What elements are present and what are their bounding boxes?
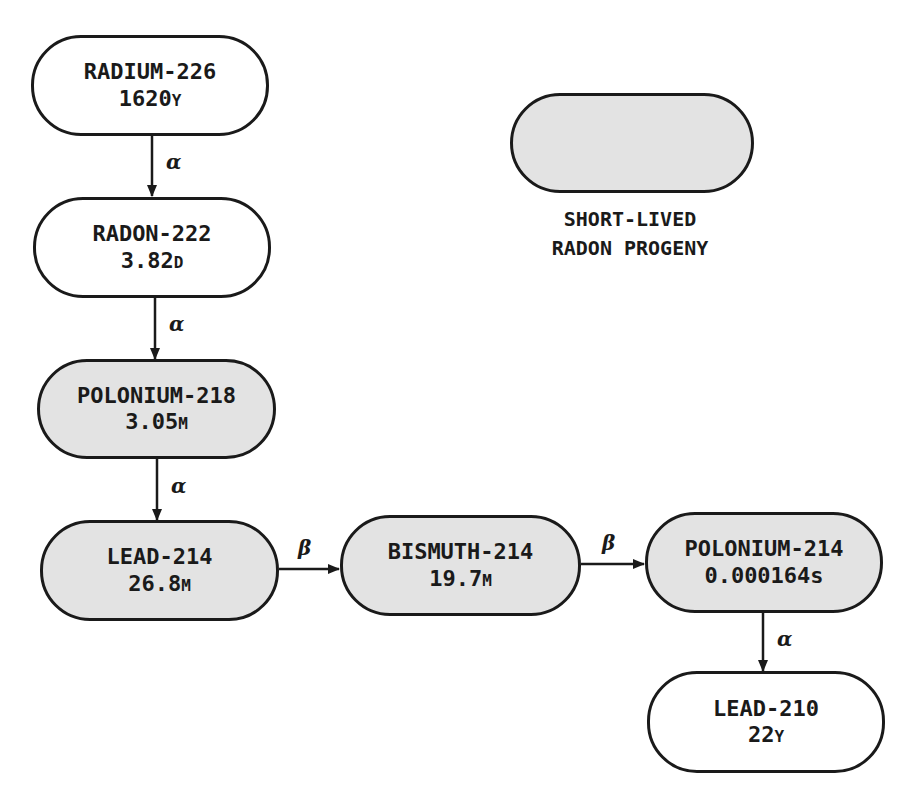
node-lead-210: LEAD-210 22Y — [647, 671, 885, 773]
node-polonium-218: POLONIUM-218 3.05M — [37, 359, 276, 459]
node-radon-222: RADON-222 3.82D — [33, 197, 271, 298]
legend-caption-line2: RADON PROGENY — [500, 234, 760, 263]
legend-caption-line1: SHORT-LIVED — [500, 205, 760, 234]
node-name: RADIUM-226 — [84, 59, 216, 85]
node-name: RADON-222 — [92, 221, 211, 247]
node-polonium-214: POLONIUM-214 0.000164s — [645, 512, 883, 613]
legend-swatch — [510, 93, 754, 193]
node-name: LEAD-214 — [107, 544, 213, 570]
node-name: POLONIUM-218 — [77, 383, 236, 409]
node-name: BISMUTH-214 — [388, 539, 534, 565]
node-half-life: 3.82D — [121, 248, 184, 274]
decay-label-alpha: α — [169, 312, 184, 336]
decay-label-alpha: α — [777, 627, 792, 651]
decay-label-beta: β — [602, 531, 615, 555]
decay-label-alpha: α — [171, 474, 186, 498]
decay-label-alpha: α — [166, 150, 181, 174]
node-half-life: 0.000164s — [704, 563, 823, 589]
node-radium-226: RADIUM-226 1620Y — [31, 35, 269, 136]
node-half-life: 26.8M — [128, 571, 191, 597]
node-half-life: 1620Y — [119, 86, 182, 112]
node-half-life: 22Y — [748, 722, 784, 748]
node-half-life: 19.7M — [429, 566, 492, 592]
node-lead-214: LEAD-214 26.8M — [40, 520, 279, 621]
node-name: LEAD-210 — [713, 696, 819, 722]
legend-caption: SHORT-LIVED RADON PROGENY — [500, 205, 760, 263]
node-half-life: 3.05M — [125, 409, 188, 435]
decay-label-beta: β — [298, 536, 311, 560]
node-bismuth-214: BISMUTH-214 19.7M — [340, 515, 581, 616]
decay-chain-diagram: α α α β β α RADIUM-226 1620Y RADON-222 3… — [0, 0, 910, 803]
node-name: POLONIUM-214 — [685, 536, 844, 562]
